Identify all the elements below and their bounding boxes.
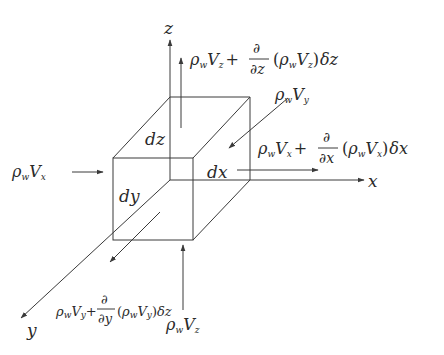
svg-text:(ρwVz)δz: (ρwVz)δz xyxy=(273,50,339,70)
diagram-canvas: z x y dz dx dy ρwVx ρwVx+ ∂ ∂x (ρwVx)δx … xyxy=(0,0,444,355)
svg-text:∂: ∂ xyxy=(253,40,260,56)
flux-y-in-label: ρwVy xyxy=(274,85,310,105)
x-axis-label: x xyxy=(368,171,378,191)
svg-text:ρwVx+: ρwVx+ xyxy=(257,139,307,159)
dz-label: dz xyxy=(145,129,166,149)
y-axis-label: y xyxy=(26,320,37,340)
y-axis xyxy=(21,180,170,318)
svg-text:∂: ∂ xyxy=(101,292,108,307)
svg-text:∂x: ∂x xyxy=(319,150,334,166)
flux-z-out-label: ρwVz+ ∂ ∂z (ρwVz)δz xyxy=(189,40,339,77)
z-axis-label: z xyxy=(163,18,174,38)
dy-label: dy xyxy=(119,186,140,206)
flux-y-out-label: ρwVy+ ∂ ∂y (ρwVy)δz xyxy=(55,292,172,326)
y-out-arrow xyxy=(110,212,160,262)
control-volume-diagram: z x y dz dx dy ρwVx ρwVx+ ∂ ∂x (ρwVx)δx … xyxy=(0,0,444,355)
flux-x-out-label: ρwVx+ ∂ ∂x (ρwVx)δx xyxy=(257,129,408,166)
svg-text:∂: ∂ xyxy=(323,129,330,145)
svg-text:ρwVz+: ρwVz+ xyxy=(189,50,239,70)
flux-x-in-label: ρwVx xyxy=(11,162,46,182)
svg-text:(ρwVx)δx: (ρwVx)δx xyxy=(342,139,408,159)
svg-text:∂y: ∂y xyxy=(98,311,113,326)
dx-label: dx xyxy=(207,162,228,182)
svg-text:(ρwVy)δz: (ρwVy)δz xyxy=(117,304,172,320)
svg-text:ρwVy+: ρwVy+ xyxy=(55,304,97,320)
svg-text:ρwVx: ρwVx xyxy=(11,162,46,182)
svg-text:∂z: ∂z xyxy=(250,61,265,77)
svg-text:ρwVy: ρwVy xyxy=(274,85,310,105)
